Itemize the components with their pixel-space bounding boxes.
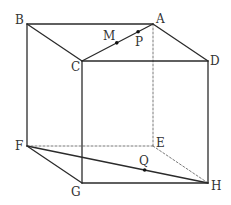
vertex-label-f: F [15, 139, 23, 153]
point-label-p: P [135, 35, 143, 49]
point-m [115, 41, 119, 45]
edges-group [27, 24, 208, 183]
vertex-label-c: C [71, 60, 80, 74]
vertex-label-g: G [71, 185, 81, 199]
point-q [143, 168, 147, 172]
vertex-label-d: D [210, 54, 220, 68]
point-label-m: M [103, 29, 115, 43]
edge-ad [153, 24, 208, 61]
vertex-label-h: H [211, 179, 221, 193]
point-label-q: Q [139, 154, 149, 168]
vertex-label-a: A [155, 12, 165, 26]
point-p [136, 30, 140, 34]
points-group [115, 30, 146, 172]
vertex-label-b: B [15, 13, 24, 27]
edge-bc [27, 24, 82, 61]
vertex-label-e: E [156, 136, 165, 150]
cube-diagram: A B C D E F G H M P Q [0, 0, 231, 205]
